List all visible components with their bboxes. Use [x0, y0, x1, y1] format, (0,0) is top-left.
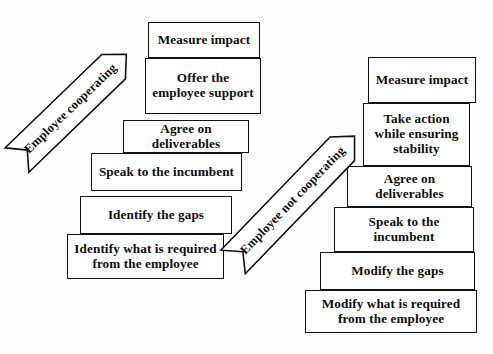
step-label: Modify the gaps: [351, 264, 443, 279]
step-label: Identify the gaps: [108, 208, 204, 223]
diagram-canvas: Identify what is required from the emplo…: [0, 0, 493, 354]
step-label: Offer the employee support: [149, 71, 257, 101]
step-box-left-6: Measure impact: [148, 22, 260, 58]
step-label: Modify what is required from the employe…: [309, 297, 473, 327]
step-box-right-3: Speak to the incumbent: [334, 207, 474, 252]
step-box-right-6: Measure impact: [368, 57, 476, 103]
step-box-left-5: Offer the employee support: [145, 58, 261, 114]
step-box-left-4: Agree on deliverables: [123, 120, 249, 153]
step-label: Identify what is required from the emplo…: [71, 242, 220, 272]
step-label: Agree on deliverables: [127, 122, 245, 152]
step-label: Take action while ensuring stability: [367, 112, 466, 156]
step-label: Speak to the incumbent: [99, 165, 234, 180]
step-box-right-2: Modify the gaps: [320, 252, 475, 290]
step-label: Agree on deliverables: [351, 172, 468, 202]
step-box-right-1: Modify what is required from the employe…: [305, 290, 477, 333]
step-label: Speak to the incumbent: [338, 215, 470, 245]
step-label: Measure impact: [376, 73, 468, 88]
step-box-left-3: Speak to the incumbent: [91, 153, 242, 191]
step-box-left-1: Identify what is required from the emplo…: [67, 234, 224, 279]
step-box-left-2: Identify the gaps: [80, 196, 232, 234]
step-box-right-5: Take action while ensuring stability: [363, 103, 470, 166]
step-label: Measure impact: [158, 33, 250, 48]
step-box-right-4: Agree on deliverables: [347, 166, 472, 207]
